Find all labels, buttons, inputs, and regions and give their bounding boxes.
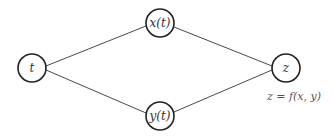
edge-x-z xyxy=(174,27,272,66)
node-t: t xyxy=(18,54,46,82)
edge-t-y xyxy=(46,70,146,113)
edge-y-z xyxy=(174,70,272,112)
node-y: y(t) xyxy=(146,102,174,130)
node-x-label: x(t) xyxy=(150,16,171,30)
node-y-label: y(t) xyxy=(149,109,171,123)
node-z-label: z xyxy=(282,61,290,75)
chain-rule-diagram: t x(t) y(t) z z = f(x, y) xyxy=(0,0,333,138)
edge-t-x xyxy=(46,26,146,66)
node-x: x(t) xyxy=(146,9,174,37)
function-caption: z = f(x, y) xyxy=(266,90,321,103)
node-z: z xyxy=(272,54,300,82)
node-t-label: t xyxy=(30,61,35,75)
